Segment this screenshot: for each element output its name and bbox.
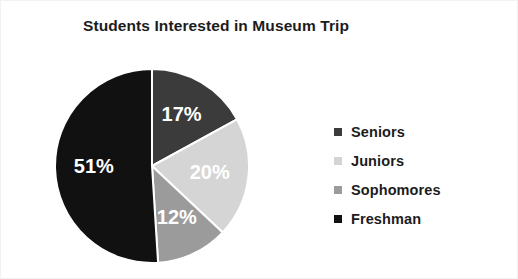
pie-chart: 17%20%12%51%	[53, 67, 251, 265]
legend-swatch-icon	[334, 157, 342, 165]
pie-slice-label-freshman: 51%	[74, 155, 114, 177]
pie-slice-label-juniors: 20%	[190, 161, 230, 183]
pie-slice-label-sophomores: 12%	[157, 206, 197, 228]
legend-item-freshman[interactable]: Freshman	[334, 204, 504, 233]
legend-item-label: Seniors	[351, 124, 405, 140]
legend-swatch-icon	[334, 215, 342, 223]
legend-item-label: Freshman	[351, 211, 421, 227]
chart-figure: Students Interested in Museum Trip 17%20…	[0, 0, 518, 279]
legend-swatch-icon	[334, 128, 342, 136]
legend-item-label: Sophomores	[351, 182, 441, 198]
legend-item-juniors[interactable]: Juniors	[334, 146, 504, 175]
legend-item-label: Juniors	[351, 153, 404, 169]
legend-swatch-icon	[334, 186, 342, 194]
legend-item-seniors[interactable]: Seniors	[334, 117, 504, 146]
chart-title: Students Interested in Museum Trip	[1, 17, 431, 35]
chart-legend: SeniorsJuniorsSophomoresFreshman	[334, 117, 504, 233]
legend-item-sophomores[interactable]: Sophomores	[334, 175, 504, 204]
pie-slice-label-seniors: 17%	[162, 103, 202, 125]
pie-chart-svg: 17%20%12%51%	[53, 67, 251, 265]
